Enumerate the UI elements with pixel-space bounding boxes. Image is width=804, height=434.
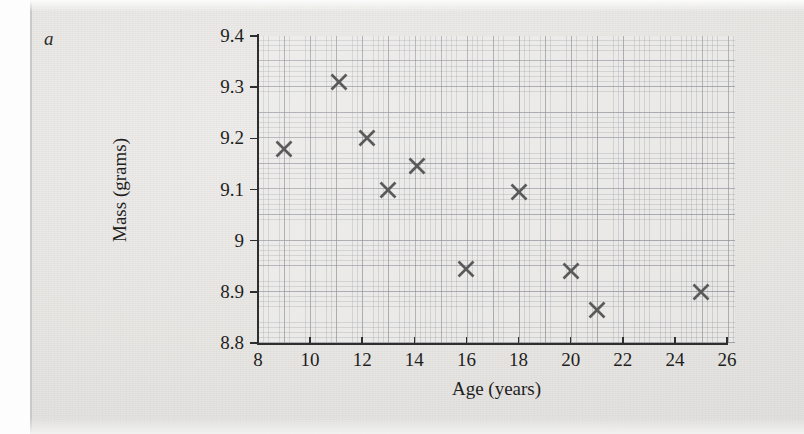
x-tick-mark [570,337,572,345]
x-tick-mark [309,337,311,345]
x-tick-label: 8 [238,349,278,371]
scatter-point-marker [508,181,530,203]
x-axis-line [257,343,728,345]
scatter-point-marker [690,281,712,303]
page-left-margin [0,0,30,434]
page-bottom-edge-shadow [30,418,804,434]
x-axis-title: Age (years) [258,378,735,400]
x-tick-mark [414,337,416,345]
x-tick-label: 22 [603,349,643,371]
y-tick-mark [250,240,258,242]
page-margin-rule [30,0,32,434]
plot-area [258,36,735,343]
y-tick-label: 8.9 [188,281,244,303]
x-tick-mark [518,337,520,345]
x-tick-mark [674,337,676,345]
x-tick-label: 24 [655,349,695,371]
page-top-edge-shadow [30,0,804,12]
y-tick-mark [250,138,258,140]
scatter-point-marker [406,155,428,177]
scatter-point-marker [328,71,350,93]
x-tick-label: 26 [707,349,747,371]
y-tick-label: 9.4 [188,25,244,47]
x-tick-label: 14 [394,349,434,371]
scatter-point-marker [560,260,582,282]
scanned-figure-page: a 8.88.999.19.29.39.4 810121416182022242… [0,0,804,434]
y-tick-label: 9.2 [188,127,244,149]
x-tick-label: 10 [290,349,330,371]
scatter-point-marker [377,179,399,201]
scatter-point-marker [356,127,378,149]
x-tick-label: 16 [446,349,486,371]
x-tick-mark [466,337,468,345]
y-tick-label: 9.1 [188,179,244,201]
scatter-point-marker [455,258,477,280]
y-tick-mark [250,189,258,191]
x-tick-mark [726,337,728,345]
x-tick-label: 12 [342,349,382,371]
x-tick-mark [361,337,363,345]
y-tick-label: 9 [188,230,244,252]
x-tick-label: 20 [551,349,591,371]
scatter-point-marker [586,299,608,321]
y-tick-label: 9.3 [188,76,244,98]
y-tick-mark [250,35,258,37]
x-tick-mark [257,337,259,345]
x-tick-mark [622,337,624,345]
scatter-point-marker [273,138,295,160]
y-tick-mark [250,291,258,293]
y-axis-title: Mass (grams) [109,138,131,242]
x-tick-label: 18 [499,349,539,371]
y-tick-mark [250,86,258,88]
y-tick-label: 8.8 [188,332,244,354]
panel-label: a [44,28,54,50]
